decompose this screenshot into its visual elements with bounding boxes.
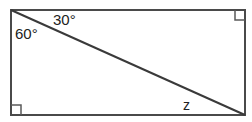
- angle-label-60: 60°: [15, 25, 38, 42]
- angle-label-30: 30°: [53, 11, 76, 28]
- rectangle-diagram: 30° 60° z: [0, 0, 252, 122]
- variable-label-z: z: [183, 97, 190, 113]
- diagonal-line: [11, 10, 245, 115]
- right-angle-mark-bottom-left: [11, 105, 21, 115]
- right-angle-mark-top-right: [235, 10, 245, 20]
